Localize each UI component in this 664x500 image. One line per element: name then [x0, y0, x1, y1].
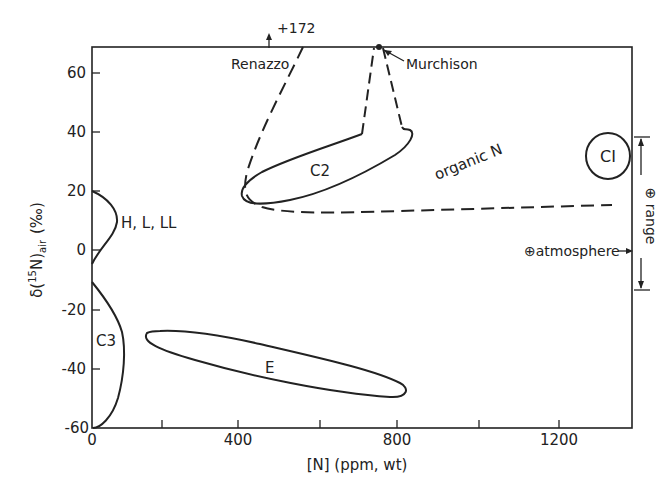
plot-frame — [92, 47, 632, 428]
label-c3: C3 — [96, 332, 116, 350]
chart-canvas: 60 40 20 0 -20 -40 -60 0 400 800 1200 [N… — [0, 0, 664, 500]
murchison-wedge-left — [362, 48, 374, 134]
label-e: E — [265, 359, 274, 377]
y-tick-neg60: -60 — [65, 419, 90, 437]
label-hlll: H, L, LL — [121, 214, 177, 232]
y-axis-ticks — [92, 73, 100, 369]
y-tick-20: 20 — [67, 182, 86, 200]
label-renazzo: Renazzo — [231, 56, 289, 72]
region-e — [146, 331, 406, 397]
label-murchison: Murchison — [406, 56, 478, 72]
x-axis-ticks — [162, 420, 559, 428]
murchison-wedge-right — [383, 48, 402, 127]
y-tick-neg20: -20 — [62, 301, 87, 319]
x-tick-labels: 0 400 800 1200 — [87, 431, 578, 449]
label-ci: CI — [600, 147, 616, 166]
x-tick-400: 400 — [224, 431, 253, 449]
x-tick-1200: 1200 — [540, 431, 578, 449]
region-hlll — [92, 191, 117, 264]
x-axis-title: [N] (ppm, wt) — [307, 456, 408, 474]
y-tick-0: 0 — [76, 241, 86, 259]
y-tick-labels: 60 40 20 0 -20 -40 -60 — [62, 64, 90, 437]
region-c3 — [92, 282, 124, 428]
label-plus172: +172 — [277, 20, 315, 36]
x-tick-0: 0 — [87, 431, 97, 449]
label-organic-n: organic N — [432, 140, 505, 184]
svg-text:δ(15N)air(‰): δ(15N)air(‰) — [27, 202, 48, 298]
renazzo-arrowhead — [266, 33, 272, 40]
x-tick-800: 800 — [383, 431, 412, 449]
label-c2: C2 — [310, 162, 330, 180]
y-tick-neg40: -40 — [62, 360, 87, 378]
range-arrow-top — [638, 138, 644, 146]
label-atmosphere: ⊕atmosphere — [524, 243, 620, 259]
murchison-point — [376, 44, 382, 50]
y-tick-40: 40 — [67, 123, 86, 141]
range-arrow-bottom — [638, 281, 644, 289]
y-axis-title: δ(15N)air(‰) — [27, 202, 48, 298]
y-tick-60: 60 — [67, 64, 86, 82]
label-range: ⊕ range — [643, 188, 659, 245]
